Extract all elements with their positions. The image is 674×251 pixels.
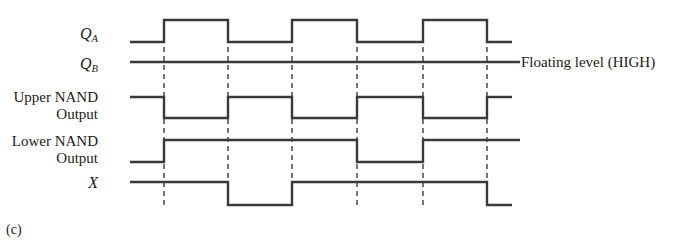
signal-label-upper-nand: Upper NAND Output	[8, 89, 98, 123]
timing-diagram	[0, 0, 674, 251]
diagram-background	[0, 0, 674, 251]
signal-label-lower-nand: Lower NAND Output	[8, 133, 98, 167]
signal-label-qb-text: QB	[80, 55, 98, 72]
signal-label-qa-subscript: A	[92, 33, 98, 44]
signal-label-qa-text: QA	[80, 25, 98, 42]
figure-caption: (c)	[6, 222, 22, 238]
signal-label-upper-nand-line1: Upper NAND	[13, 89, 98, 105]
signal-label-lower-nand-line2: Output	[8, 150, 98, 167]
signal-label-x-text: X	[88, 174, 98, 191]
signal-label-x: X	[16, 174, 98, 192]
signal-label-qb: QB	[16, 55, 98, 73]
signal-label-qb-subscript: B	[92, 63, 98, 74]
signal-label-lower-nand-line1: Lower NAND	[12, 133, 98, 149]
floating-level-annotation: Floating level (HIGH)	[521, 54, 655, 71]
signal-label-qa: QA	[16, 25, 98, 43]
signal-label-upper-nand-line2: Output	[8, 106, 98, 123]
